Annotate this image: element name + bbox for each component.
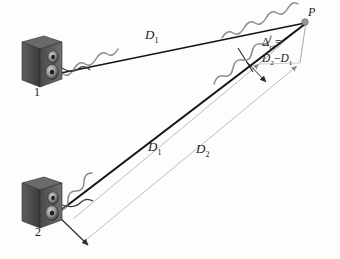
loudspeaker-2 (22, 177, 93, 228)
speaker-1-woofer-dome (50, 69, 54, 74)
label-path-length-difference: Δpl= D2−D1 (262, 36, 292, 68)
dimension-line-d2 (86, 66, 297, 240)
label-d2-dimension-letter: D (196, 141, 205, 156)
label-point-p: P (308, 6, 315, 19)
label-d1-dimension: D1 (148, 140, 161, 157)
label-delta-equals: = (275, 36, 282, 48)
label-d1-upper-subscript: 1 (154, 36, 158, 45)
speaker-1-side-face (22, 42, 40, 87)
label-d2-dimension: D2 (196, 142, 209, 159)
label-d2-dimension-subscript: 2 (205, 150, 209, 159)
speaker-1-tweeter-dome (51, 55, 55, 59)
label-d1-dimension-subscript: 1 (157, 148, 161, 157)
label-speaker-2: 2 (35, 226, 41, 239)
speaker-2-tweeter-dome (51, 196, 55, 200)
speaker-2-side-face (22, 183, 40, 228)
label-delta-d1-subscript: 1 (289, 59, 293, 67)
physics-diagram-two-speakers: D1 D1 D2 P Δpl= D2−D1 1 2 (0, 0, 340, 259)
label-delta-d1: D (280, 52, 288, 64)
point-p-marker (302, 19, 308, 25)
speaker-2-woofer-dome (50, 210, 54, 215)
label-d1-upper-letter: D (145, 27, 154, 42)
speaker-1-cable (62, 67, 90, 72)
label-speaker-1: 1 (34, 86, 40, 99)
dimension-line-d1 (73, 64, 259, 219)
label-d1-upper-ray: D1 (145, 28, 158, 45)
label-d1-dimension-letter: D (148, 139, 157, 154)
loudspeaker-1 (22, 36, 90, 87)
